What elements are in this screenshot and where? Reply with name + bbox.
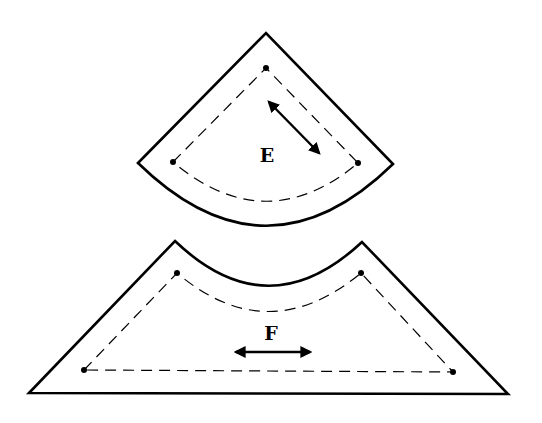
piece-f	[29, 241, 508, 394]
piece-f-label: F	[264, 324, 278, 343]
piece-e-corner-dot	[170, 159, 176, 165]
piece-f-corner-dot	[358, 270, 364, 276]
piece-e-corner-dot	[355, 160, 361, 166]
diagram-canvas: E F	[0, 0, 542, 423]
piece-e-corner-dot	[263, 65, 269, 71]
piece-e	[138, 33, 393, 226]
pattern-pieces-drawing	[0, 0, 542, 423]
piece-f-corner-dot	[450, 369, 456, 375]
piece-e-cut-line	[138, 33, 393, 226]
piece-e-grainline-arrow-icon	[269, 102, 319, 153]
piece-f-corner-dot	[174, 270, 180, 276]
piece-f-corner-dot	[81, 367, 87, 373]
piece-e-label: E	[260, 146, 274, 165]
piece-e-seam-line	[173, 68, 358, 201]
